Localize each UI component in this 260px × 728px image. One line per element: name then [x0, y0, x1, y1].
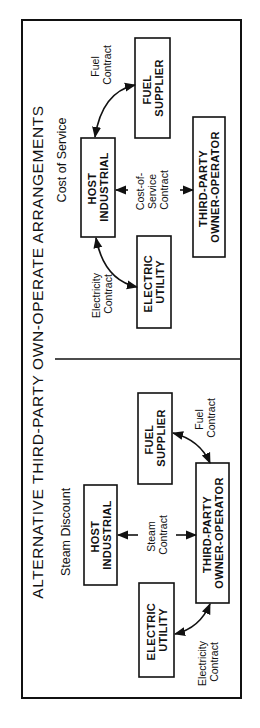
svg-text:ELECTRIC UTILITY: ELECTRIC UTILITY [145, 600, 169, 661]
node-electric-utility: ELECTRIC UTILITY [139, 583, 174, 677]
panel-steam-discount: Steam Discount HOST INDUSTRIAL FUEL SUPP… [59, 393, 229, 686]
panel-heading: Cost of Service [55, 118, 69, 203]
edge-label-fuel-contract: Fuel Contract [193, 398, 217, 438]
edge-label-electricity-contract: Electricity Contract [196, 638, 220, 686]
panel-heading: Steam Discount [59, 487, 73, 576]
svg-text:THIRD-PARTY OWNER-OPER: THIRD-PARTY OWNER-OPERATOR [197, 131, 221, 242]
edge-label-service-contract: Cost-of- Service Contract [134, 170, 170, 210]
node-electric-utility: ELECTRIC UTILITY [137, 236, 171, 328]
edge-electricity-contract [175, 604, 210, 634]
edge-fuel-contract [95, 85, 135, 137]
edge-label-fuel-contract: Fuel Contract [89, 45, 113, 85]
node-third-party-owner-operator: THIRD-PARTY OWNER-OPERATOR [196, 463, 229, 603]
node-host-industrial: HOST INDUSTRIAL [84, 485, 117, 585]
node-third-party-owner-operator: THIRD-PARTY OWNER-OPERATOR [193, 117, 225, 257]
node-fuel-supplier: FUEL SUPPLIER [135, 38, 170, 138]
node-host-industrial: HOST INDUSTRIAL [81, 138, 115, 237]
panel-cost-of-service: Cost of Service HOST INDUSTRIAL FUEL SUP… [55, 38, 225, 328]
edge-label-electricity-contract: Electricity Contract [90, 270, 114, 318]
node-fuel-supplier: FUEL SUPPLIER [138, 393, 172, 484]
edge-label-steam-contract: Steam Contract [145, 515, 169, 555]
diagram: ALTERNATIVE THIRD-PARTY OWN-OPERATE ARRA… [0, 0, 260, 728]
svg-text:THIRD-PARTY OWNER-OPER: THIRD-PARTY OWNER-OPERATOR [201, 477, 225, 588]
svg-text:ELECTRIC UTILITY: ELECTRIC UTILITY [142, 252, 166, 313]
diagram-title: ALTERNATIVE THIRD-PARTY OWN-OPERATE ARRA… [29, 105, 46, 599]
